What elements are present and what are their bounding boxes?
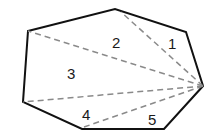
heptagon-diagram: 1 2 3 4 5	[0, 0, 204, 137]
heptagon-outline	[23, 9, 203, 129]
triangle-label-4: 4	[82, 106, 90, 123]
triangle-label-1: 1	[168, 35, 176, 52]
diagonal-d-g	[23, 86, 203, 102]
triangle-label-2: 2	[112, 34, 120, 51]
triangle-label-5: 5	[148, 111, 156, 128]
triangle-label-3: 3	[67, 65, 75, 82]
